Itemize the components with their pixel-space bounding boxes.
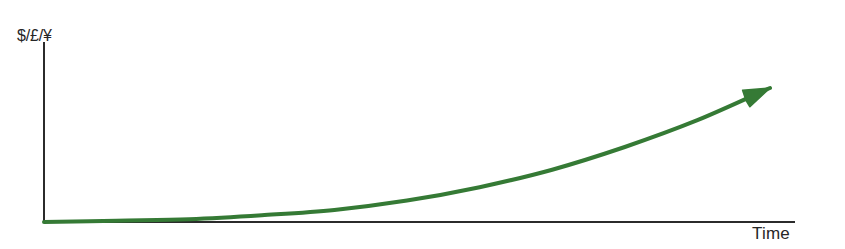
x-axis-label: Time xyxy=(752,225,790,242)
y-axis-label: $/£/¥ xyxy=(17,28,52,44)
axes-group xyxy=(44,42,795,222)
growth-curve-group xyxy=(44,88,770,222)
exponential-growth-chart: $/£/¥ Time xyxy=(0,0,845,249)
curve-arrowhead-icon xyxy=(743,88,770,107)
growth-curve-path xyxy=(44,88,770,222)
chart-drawing-area xyxy=(0,0,845,249)
